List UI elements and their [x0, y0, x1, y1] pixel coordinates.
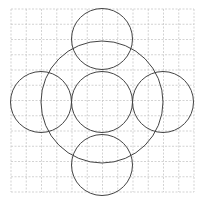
top-circle — [72, 9, 133, 70]
center-circle — [72, 72, 133, 133]
dashed-grid — [11, 9, 194, 192]
large-circle — [41, 41, 163, 163]
bottom-circle — [72, 135, 133, 196]
diagram-canvas — [0, 0, 202, 205]
circle-group — [11, 9, 194, 196]
